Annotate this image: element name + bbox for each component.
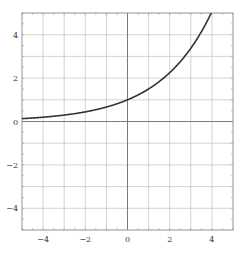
- x-tick-label: 4: [209, 235, 214, 244]
- x-tick-label: 0: [125, 235, 130, 244]
- y-tick-labels: −4−2024: [6, 31, 18, 214]
- x-tick-labels: −4−2024: [37, 235, 214, 244]
- y-tick-label: 0: [13, 118, 18, 127]
- y-tick-label: −4: [6, 204, 18, 213]
- x-tick-label: −2: [79, 235, 91, 244]
- x-tick-label: 2: [167, 235, 172, 244]
- y-tick-label: 4: [13, 31, 18, 40]
- y-tick-label: 2: [13, 74, 18, 83]
- function-plot: −4−2024 −4−2024: [0, 0, 246, 253]
- x-tick-label: −4: [37, 235, 49, 244]
- exponential-curve: [22, 13, 211, 119]
- y-tick-label: −2: [6, 161, 18, 170]
